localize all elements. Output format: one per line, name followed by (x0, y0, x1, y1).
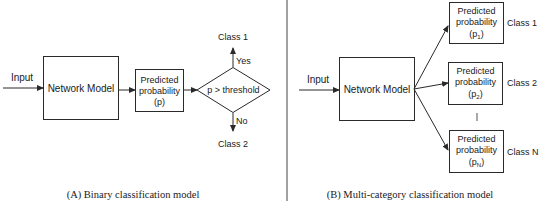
network-model-label-b: Network Model (344, 84, 411, 95)
network-model-label-a: Network Model (48, 83, 115, 94)
output-1-line1: Predicted (457, 6, 495, 16)
class-2-label-b: Class 2 (507, 78, 537, 88)
output-1-symbol: (p1) (469, 29, 483, 40)
input-label-b: Input (307, 74, 329, 85)
arrow-to-class-1 (414, 26, 448, 89)
predicted-line3-a: (p) (154, 97, 165, 107)
output-n-symbol: (pN) (469, 157, 484, 168)
input-label-a: Input (11, 72, 33, 83)
class-n-label-b: Class N (507, 147, 539, 157)
output-n-line2: probability (456, 145, 498, 155)
no-label: No (236, 116, 248, 126)
output-box-class-n: Predicted probability (pN) Class N (450, 131, 539, 173)
classification-diagram: Input Network Model Predicted probabilit… (0, 0, 542, 209)
caption-b: (B) Multi-category classification model (327, 189, 494, 201)
decision-label: p > threshold (207, 85, 259, 95)
predicted-line2-a: probability (139, 86, 181, 96)
output-n-line1: Predicted (457, 134, 495, 144)
output-box-class-2: Predicted probability (p2) Class 2 (449, 63, 538, 105)
arrow-to-class-n (414, 89, 448, 150)
output-2-line1: Predicted (456, 66, 494, 76)
output-2-symbol: (p2) (468, 89, 482, 100)
output-2-line2: probability (455, 77, 497, 87)
panel-a-binary: Input Network Model Predicted probabilit… (3, 32, 270, 201)
output-1-line2: probability (456, 17, 498, 27)
panel-b-multicategory: Input Network Model Predicted probabilit… (299, 3, 539, 202)
class-1-label-a: Class 1 (218, 32, 248, 42)
output-box-class-1: Predicted probability (p1) Class 1 (450, 3, 538, 44)
arrow-to-class-2 (414, 83, 448, 89)
caption-a: (A) Binary classification model (67, 189, 200, 201)
yes-label: Yes (236, 56, 251, 66)
predicted-line1-a: Predicted (140, 75, 178, 85)
class-2-label-a: Class 2 (218, 139, 248, 149)
class-1-label-b: Class 1 (507, 18, 537, 28)
